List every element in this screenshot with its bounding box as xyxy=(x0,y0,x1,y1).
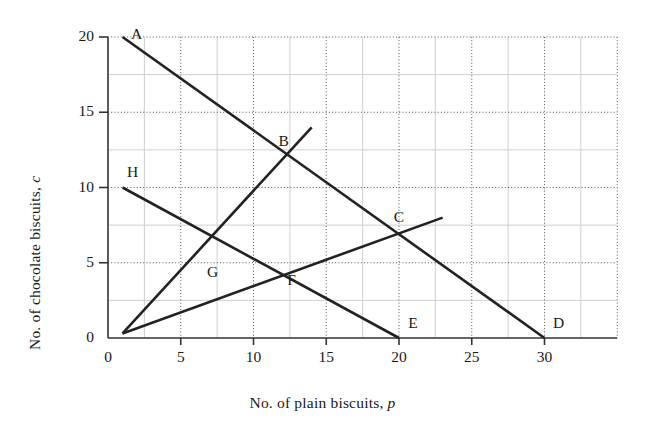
point-label-a: A xyxy=(127,25,147,43)
y-tick-label-15: 15 xyxy=(60,102,94,120)
series-line-ad xyxy=(123,37,545,338)
point-label-g: G xyxy=(203,263,223,281)
x-tick-label-25: 25 xyxy=(455,348,489,366)
y-tick-label-0: 0 xyxy=(60,328,94,346)
data-series-lines xyxy=(123,37,545,338)
point-label-b: B xyxy=(274,132,294,150)
y-tick-label-5: 5 xyxy=(60,253,94,271)
x-tick-label-10: 10 xyxy=(237,348,271,366)
tick-marks xyxy=(99,37,545,345)
point-label-e: E xyxy=(403,314,423,332)
x-tick-label-15: 15 xyxy=(309,348,343,366)
y-axis-variable: c xyxy=(26,176,43,183)
y-tick-label-10: 10 xyxy=(60,178,94,196)
x-tick-label-20: 20 xyxy=(382,348,416,366)
x-axis-variable: p xyxy=(388,394,396,411)
y-axis-title: No. of chocolate biscuits, c xyxy=(26,176,44,350)
x-axis-title: No. of plain biscuits, p xyxy=(0,394,645,412)
point-label-d: D xyxy=(549,314,569,332)
x-tick-label-30: 30 xyxy=(528,348,562,366)
chart-figure: 051015202530 05101520 ABCDEFGH No. of pl… xyxy=(0,0,645,430)
x-axis-title-text: No. of plain biscuits, xyxy=(249,394,387,411)
point-label-f: F xyxy=(282,271,302,289)
x-tick-label-0: 0 xyxy=(91,348,125,366)
x-tick-label-5: 5 xyxy=(164,348,198,366)
series-line-he xyxy=(123,188,399,339)
y-axis-title-text: No. of chocolate biscuits, xyxy=(26,183,43,350)
y-tick-label-20: 20 xyxy=(60,27,94,45)
point-label-c: C xyxy=(389,208,409,226)
point-label-h: H xyxy=(123,163,143,181)
